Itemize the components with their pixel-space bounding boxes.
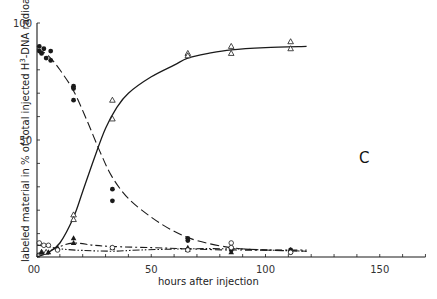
- open-circle-marker: [229, 241, 234, 246]
- open-triangle-marker: [288, 39, 294, 44]
- open-triangle-marker: [110, 97, 116, 102]
- open-circle-marker: [229, 245, 234, 250]
- open-triangle-marker: [228, 50, 234, 55]
- open-circle-marker: [42, 243, 47, 248]
- axes: 050100150050100: [13, 18, 426, 275]
- x-axis-label: hours after injection: [158, 276, 259, 287]
- open-circle-marker: [288, 250, 293, 255]
- x-tick-label: 150: [370, 264, 389, 275]
- curve-series-0: [37, 49, 307, 252]
- filled-circle-marker: [71, 98, 76, 103]
- filled-circle-marker: [110, 198, 115, 203]
- filled-circle-marker: [48, 58, 53, 63]
- open-circle-marker: [110, 245, 115, 250]
- y-tick-label: 0: [28, 264, 34, 275]
- fitted-curves: [37, 46, 307, 257]
- filled-triangle-marker: [71, 235, 77, 240]
- open-circle-marker: [186, 248, 191, 253]
- data-markers: [37, 39, 294, 255]
- filled-circle-marker: [71, 86, 76, 91]
- open-circle-marker: [46, 243, 51, 248]
- open-triangle-marker: [71, 217, 77, 222]
- y-axis-label: labeled material in % of total injected …: [19, 0, 31, 262]
- filled-circle-marker: [37, 44, 42, 49]
- open-triangle-marker: [228, 43, 234, 48]
- open-circle-marker: [37, 241, 42, 246]
- curve-series-2: [37, 243, 307, 254]
- open-circle-marker: [55, 248, 60, 253]
- curve-series-1: [37, 46, 307, 257]
- filled-circle-marker: [110, 187, 115, 192]
- chart-canvas: 050100150050100 C hours after injection …: [0, 0, 437, 299]
- filled-circle-marker: [44, 56, 49, 61]
- x-tick-label: 0: [34, 264, 40, 275]
- y-axis-label-before: labeled material in % of total injected …: [20, 63, 31, 262]
- panel-label: C: [359, 149, 369, 167]
- filled-circle-marker: [48, 49, 53, 54]
- filled-circle-marker: [185, 238, 190, 243]
- x-tick-label: 100: [256, 264, 275, 275]
- x-tick-label: 50: [145, 264, 158, 275]
- y-axis-label-after: -DNA radioactivity: [20, 0, 31, 58]
- filled-circle-marker: [39, 51, 44, 56]
- filled-circle-marker: [41, 46, 46, 51]
